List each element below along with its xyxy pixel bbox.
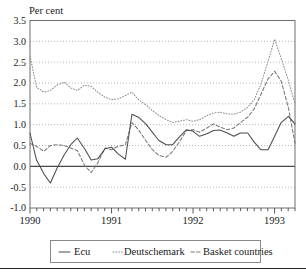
y-axis-tick-label: 3.5 [14,15,27,26]
y-axis-tick-label: 0.0 [14,161,27,172]
y-axis-tick-label: -0.5 [10,182,26,193]
plot-frame [30,21,295,209]
line-chart: Per cent 3.53.02.52.01.51.00.50.0-0.5-1.… [0,0,306,272]
y-axis-tick-label: 1.0 [14,119,27,130]
y-axis-tick-labels: 3.53.02.52.01.51.00.50.0-0.5-1.0 [10,15,26,214]
x-axis-tick-label: 1990 [20,215,41,226]
legend-label: Deutschemark [124,246,185,257]
y-axis-tick-label: 0.5 [14,140,27,151]
y-axis-tick-label: 3.0 [14,36,27,47]
y-axis-title: Per cent [29,5,63,16]
y-axis-tick-label: 1.5 [14,98,27,109]
series-line-deutschemark [30,39,295,122]
x-axis-tick-label: 1992 [183,215,204,226]
legend-label: Basket countries [203,246,273,257]
legend-label: Ecu [74,246,91,257]
x-axis-ticks [30,208,295,214]
x-axis-tick-label: 1993 [264,215,285,226]
x-axis-tick-label: 1991 [101,215,122,226]
y-axis-tick-label: -1.0 [10,202,26,213]
y-axis-tick-label: 2.0 [14,77,27,88]
y-axis-tick-label: 2.5 [14,57,27,68]
gridlines [30,41,295,187]
x-axis-tick-labels: 1990199119921993 [20,215,286,226]
chart-figure: Per cent 3.53.02.52.01.51.00.50.0-0.5-1.… [0,0,306,272]
